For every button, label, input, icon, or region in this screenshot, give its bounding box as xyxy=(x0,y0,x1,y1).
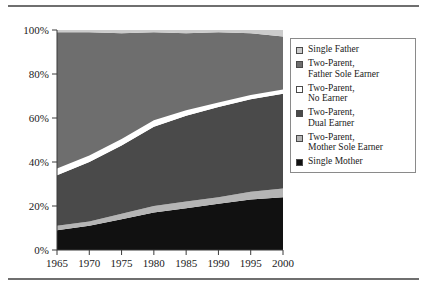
legend-swatch-dual-earner xyxy=(296,110,303,117)
figure: 0%20%40%60%80%100% 196519701975198019851… xyxy=(0,0,427,289)
chart-legend: Single Father Two-Parent, Father Sole Ea… xyxy=(290,38,416,173)
legend-item-single-mother[interactable]: Single Mother xyxy=(296,156,411,167)
y-tick-label: 40% xyxy=(29,156,49,168)
x-tick-label: 1980 xyxy=(143,257,166,269)
legend-label-mother-sole-earner: Two-Parent, Mother Sole Earner xyxy=(308,132,383,153)
legend-item-mother-sole-earner[interactable]: Two-Parent, Mother Sole Earner xyxy=(296,132,411,153)
legend-swatch-father-sole-earner xyxy=(296,61,303,68)
legend-item-no-earner[interactable]: Two-Parent, No Earner xyxy=(296,83,411,104)
bottom-rule xyxy=(8,278,419,280)
legend-item-single-father[interactable]: Single Father xyxy=(296,44,411,55)
x-tick-label: 1985 xyxy=(175,257,198,269)
legend-label-dual-earner: Two-Parent, Dual Earner xyxy=(308,107,355,128)
x-axis-ticks xyxy=(57,250,283,255)
y-tick-label: 20% xyxy=(29,200,49,212)
legend-item-father-sole-earner[interactable]: Two-Parent, Father Sole Earner xyxy=(296,58,411,79)
legend-label-single-mother: Single Mother xyxy=(308,156,363,167)
y-tick-label: 80% xyxy=(29,68,49,80)
legend-swatch-single-father xyxy=(296,47,303,54)
x-tick-label: 1990 xyxy=(207,257,230,269)
y-tick-label: 100% xyxy=(23,24,49,36)
legend-swatch-mother-sole-earner xyxy=(296,135,303,142)
top-rule xyxy=(8,5,419,7)
x-axis-tick-labels: 19651970197519801985199019952000 xyxy=(46,257,295,269)
legend-label-no-earner: Two-Parent, No Earner xyxy=(308,83,355,104)
x-tick-label: 1965 xyxy=(46,257,69,269)
y-axis-tick-labels: 0%20%40%60%80%100% xyxy=(23,24,49,256)
legend-label-single-father: Single Father xyxy=(308,44,359,55)
legend-label-father-sole-earner: Two-Parent, Father Sole Earner xyxy=(308,58,379,79)
legend-item-dual-earner[interactable]: Two-Parent, Dual Earner xyxy=(296,107,411,128)
y-tick-label: 60% xyxy=(29,112,49,124)
y-tick-label: 0% xyxy=(34,244,49,256)
x-tick-label: 1975 xyxy=(111,257,134,269)
x-tick-label: 2000 xyxy=(272,257,295,269)
legend-swatch-single-mother xyxy=(296,159,303,166)
x-tick-label: 1995 xyxy=(240,257,263,269)
area-bands xyxy=(57,30,283,250)
y-axis-ticks xyxy=(52,30,57,250)
legend-swatch-no-earner xyxy=(296,86,303,93)
x-tick-label: 1970 xyxy=(78,257,101,269)
